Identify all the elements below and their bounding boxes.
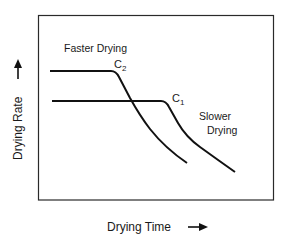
slower-label-line1: Slower	[199, 110, 232, 122]
c1-label: C1	[172, 92, 185, 107]
slower-label-line2: Drying	[207, 124, 238, 136]
c2-subscript: 2	[122, 64, 127, 73]
c1-main: C	[172, 92, 180, 104]
c1-subscript: 1	[180, 98, 185, 107]
x-axis-label: Drying Time	[107, 220, 171, 234]
y-axis-label: Drying Rate	[11, 96, 25, 160]
c2-label: C2	[114, 58, 127, 73]
curve-c2-faster	[50, 71, 187, 163]
c2-main: C	[114, 58, 122, 70]
x-arrow-icon	[188, 223, 208, 231]
y-axis-label-group: Drying Rate	[11, 59, 25, 160]
drying-rate-chart: Faster Drying C2 C1 Slower Drying Drying…	[0, 0, 289, 242]
faster-drying-label: Faster Drying	[64, 42, 127, 54]
y-arrow-icon	[14, 59, 22, 79]
